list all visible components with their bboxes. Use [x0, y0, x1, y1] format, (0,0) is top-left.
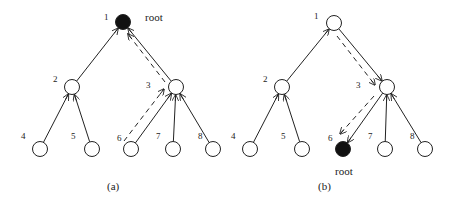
tree-node-3	[169, 80, 184, 95]
node-label-7: 7	[156, 131, 161, 141]
diagram-caption: (b)	[318, 180, 331, 193]
node-label-6: 6	[117, 133, 122, 143]
edge-2-to-1	[287, 29, 329, 81]
edge-6-to-3	[135, 93, 171, 142]
edge-8-to-3	[180, 94, 209, 143]
tree-node-4	[243, 142, 258, 157]
edge-5-to-2	[284, 95, 299, 142]
edge-7-to-3	[173, 95, 175, 142]
edge-3-to-6	[348, 93, 383, 142]
root-label: root	[335, 165, 353, 177]
tree-node-5	[85, 142, 100, 157]
edge-4-to-2	[43, 94, 68, 142]
edge-7-to-3	[385, 95, 387, 142]
dashed-path-arrow	[128, 34, 165, 82]
node-label-4: 4	[231, 131, 236, 141]
diagram-a: 12345678root(a)	[21, 11, 221, 193]
node-label-7: 7	[368, 131, 373, 141]
tree-node-2	[65, 80, 80, 95]
tree-node-7	[166, 142, 181, 157]
edge-8-to-3	[391, 94, 421, 143]
tree-node-3	[380, 80, 395, 95]
tree-node-1	[327, 16, 342, 31]
node-label-3: 3	[146, 80, 151, 90]
node-label-2: 2	[263, 74, 268, 84]
tree-node-7	[378, 142, 393, 157]
node-label-8: 8	[198, 131, 203, 141]
node-label-3: 3	[356, 80, 361, 90]
node-label-1: 1	[314, 11, 319, 21]
edge-1-to-3	[339, 29, 382, 81]
edge-4-to-2	[253, 94, 278, 142]
node-label-5: 5	[71, 131, 76, 141]
tree-node-5	[295, 142, 310, 157]
tree-node-6-root	[336, 142, 351, 157]
edge-5-to-2	[74, 95, 89, 142]
tree-node-6	[124, 142, 139, 157]
tree-node-2	[275, 80, 290, 95]
node-label-8: 8	[410, 131, 415, 141]
node-label-5: 5	[281, 131, 286, 141]
tree-node-8	[206, 142, 221, 157]
edge-3-to-1	[128, 28, 171, 81]
diagram-b: 12345678root(b)	[231, 11, 433, 193]
node-label-4: 4	[21, 131, 26, 141]
tree-diagram-canvas: 12345678root(a) 12345678root(b)	[0, 0, 454, 206]
tree-node-4	[33, 142, 48, 157]
dashed-path-arrow	[337, 36, 375, 85]
edge-2-to-1	[77, 28, 118, 81]
tree-node-8	[418, 142, 433, 157]
tree-node-1-root	[116, 15, 131, 30]
root-label: root	[145, 11, 163, 23]
node-label-6: 6	[328, 133, 333, 143]
dashed-path-arrow	[340, 96, 374, 134]
node-label-2: 2	[53, 74, 58, 84]
node-label-1: 1	[104, 12, 109, 22]
diagram-caption: (a)	[107, 180, 120, 193]
